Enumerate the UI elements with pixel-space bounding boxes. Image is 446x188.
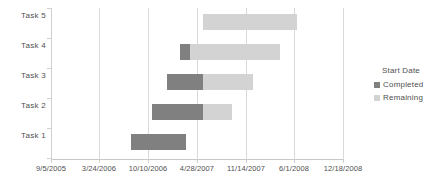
bar-segment-remaining-task-2[interactable]	[203, 104, 232, 120]
legend-title: Start Date	[382, 66, 444, 75]
y-tick-1	[47, 38, 51, 39]
y-tick-3	[47, 98, 51, 99]
x-tick-1	[99, 159, 100, 163]
bar-segment-remaining-task-4[interactable]	[190, 44, 280, 60]
bar-segment-completed-task-1[interactable]	[131, 134, 186, 150]
x-axis-label-6: 12/18/2008	[324, 164, 363, 173]
legend-item-remaining[interactable]: Remaining	[374, 93, 444, 102]
legend-label-remaining: Remaining	[383, 93, 423, 102]
bar-row-task-1	[51, 134, 343, 150]
y-axis-label-task-4: Task 4	[0, 41, 46, 50]
legend: Start Date Completed Remaining	[374, 66, 444, 106]
x-tick-0	[51, 159, 52, 163]
bar-segment-completed-task-3[interactable]	[167, 74, 203, 90]
y-tick-4	[47, 128, 51, 129]
bar-segment-completed-task-4[interactable]	[180, 44, 190, 60]
bar-segment-remaining-task-3[interactable]	[203, 74, 253, 90]
legend-label-completed: Completed	[383, 80, 424, 89]
y-axis-label-task-1: Task 1	[0, 131, 46, 140]
x-tick-4	[246, 159, 247, 163]
legend-item-completed[interactable]: Completed	[374, 80, 444, 89]
y-axis-line	[51, 8, 52, 159]
gantt-chart: Task 5 Task 4 Task 3 Task 2 Task 1 9/5/2…	[0, 0, 446, 188]
y-axis-label-task-2: Task 2	[0, 101, 46, 110]
x-axis-label-1: 3/24/2006	[82, 164, 116, 173]
x-axis-label-0: 9/5/2005	[36, 164, 66, 173]
x-tick-3	[197, 159, 198, 163]
legend-swatch-remaining-icon	[374, 95, 380, 101]
y-axis-label-task-5: Task 5	[0, 11, 46, 20]
x-tick-5	[294, 159, 295, 163]
bar-segment-remaining-task-5[interactable]	[203, 14, 297, 30]
y-axis-label-task-3: Task 3	[0, 71, 46, 80]
y-tick-2	[47, 68, 51, 69]
x-axis-label-3: 4/28/2007	[180, 164, 214, 173]
legend-swatch-completed-icon	[374, 82, 380, 88]
plot-area	[51, 8, 343, 159]
y-tick-0	[47, 8, 51, 9]
x-tick-6	[343, 159, 344, 163]
x-tick-2	[148, 159, 149, 163]
x-axis-label-5: 6/1/2008	[279, 164, 309, 173]
gridline-6	[343, 8, 344, 159]
bar-row-task-3	[51, 74, 343, 90]
bar-row-task-2	[51, 104, 343, 120]
bar-segment-completed-task-2[interactable]	[152, 104, 203, 120]
bar-row-task-5	[51, 14, 343, 30]
x-axis-label-4: 11/14/2007	[227, 164, 265, 173]
bar-row-task-4	[51, 44, 343, 60]
x-axis-label-2: 10/10/2006	[129, 164, 168, 173]
